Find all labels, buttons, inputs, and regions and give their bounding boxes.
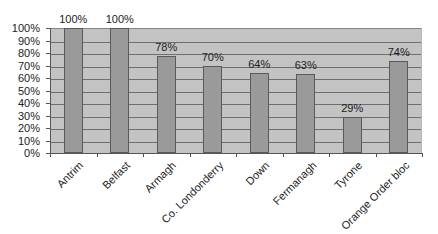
category-label: Tyrone xyxy=(332,159,364,191)
bar-antrim xyxy=(64,28,83,153)
gridline xyxy=(50,117,421,118)
category-label: Belfast xyxy=(100,159,132,191)
gridline xyxy=(50,42,421,43)
plot-area xyxy=(50,28,422,153)
y-tick-label: 100% xyxy=(0,22,40,34)
x-tick-mark xyxy=(190,153,191,157)
y-tick-label: 60% xyxy=(0,72,40,84)
y-tick-mark xyxy=(46,141,50,142)
x-tick-mark xyxy=(143,153,144,157)
y-tick-mark xyxy=(46,128,50,129)
bar-co-londonderry xyxy=(203,66,222,154)
y-tick-label: 30% xyxy=(0,110,40,122)
y-tick-mark xyxy=(46,53,50,54)
y-tick-label: 10% xyxy=(0,135,40,147)
category-label: Armagh xyxy=(143,159,179,195)
gridline xyxy=(50,129,421,130)
x-tick-mark xyxy=(422,153,423,157)
y-tick-label: 70% xyxy=(0,60,40,72)
y-tick-mark xyxy=(46,66,50,67)
value-label: 29% xyxy=(329,102,375,114)
bar-orange-order-bloc xyxy=(389,61,408,154)
y-tick-label: 40% xyxy=(0,97,40,109)
x-tick-mark xyxy=(236,153,237,157)
gridline xyxy=(50,92,421,93)
value-label: 70% xyxy=(190,51,236,63)
bar-armagh xyxy=(157,56,176,154)
value-label: 78% xyxy=(143,41,189,53)
x-tick-mark xyxy=(376,153,377,157)
y-tick-label: 90% xyxy=(0,35,40,47)
category-label: Fermanagh xyxy=(270,159,318,207)
gridline xyxy=(50,79,421,80)
y-tick-label: 0% xyxy=(0,147,40,159)
bar-tyrone xyxy=(343,117,362,153)
y-tick-mark xyxy=(46,28,50,29)
value-label: 100% xyxy=(50,13,96,25)
bar-belfast xyxy=(110,28,129,153)
value-label: 63% xyxy=(283,59,329,71)
bar-fermanagh xyxy=(296,74,315,153)
y-tick-mark xyxy=(46,116,50,117)
x-tick-mark xyxy=(97,153,98,157)
y-tick-label: 20% xyxy=(0,122,40,134)
x-tick-mark xyxy=(283,153,284,157)
gridline xyxy=(50,142,421,143)
value-label: 74% xyxy=(376,46,422,58)
y-tick-mark xyxy=(46,78,50,79)
y-axis xyxy=(50,28,51,154)
y-tick-label: 80% xyxy=(0,47,40,59)
y-tick-mark xyxy=(46,41,50,42)
value-label: 100% xyxy=(97,13,143,25)
bar-chart: 0%10%20%30%40%50%60%70%80%90%100% 100%10… xyxy=(0,0,438,234)
y-tick-mark xyxy=(46,103,50,104)
y-tick-mark xyxy=(46,91,50,92)
bar-down xyxy=(250,73,269,153)
y-tick-mark xyxy=(46,153,50,154)
x-tick-mark xyxy=(329,153,330,157)
value-label: 64% xyxy=(236,58,282,70)
y-tick-label: 50% xyxy=(0,85,40,97)
x-tick-mark xyxy=(50,153,51,157)
category-label: Down xyxy=(243,159,271,187)
category-label: Antrim xyxy=(55,159,86,190)
